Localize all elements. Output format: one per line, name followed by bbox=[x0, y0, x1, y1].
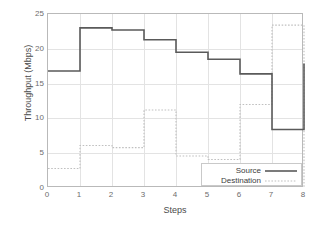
x-tick-label: 4 bbox=[173, 190, 177, 199]
plot-area bbox=[47, 13, 303, 187]
chart-figure: 0510152025 Throughput (Mbps) 012345678 S… bbox=[0, 0, 316, 227]
x-tick-label: 2 bbox=[109, 190, 113, 199]
y-axis-label: Throughput (Mbps) bbox=[23, 8, 33, 158]
series-container bbox=[48, 14, 304, 188]
x-tick-label: 6 bbox=[237, 190, 241, 199]
x-axis-label: Steps bbox=[47, 205, 303, 215]
legend-swatch-destination-icon bbox=[265, 178, 297, 184]
x-tick-label: 5 bbox=[205, 190, 209, 199]
x-tick-label: 3 bbox=[141, 190, 145, 199]
x-tick-label: 8 bbox=[301, 190, 305, 199]
legend-entry-destination: Destination bbox=[202, 175, 301, 186]
legend-label-source: Source bbox=[236, 166, 265, 175]
x-tick-label: 1 bbox=[77, 190, 81, 199]
series-line-source bbox=[48, 28, 304, 130]
x-tick-label: 7 bbox=[269, 190, 273, 199]
x-tick-label: 0 bbox=[45, 190, 49, 199]
legend-label-destination: Destination bbox=[221, 176, 265, 185]
legend-swatch-source-icon bbox=[265, 168, 297, 174]
x-axis-ticks: 012345678 bbox=[0, 190, 316, 202]
legend: Source Destination bbox=[201, 163, 302, 186]
